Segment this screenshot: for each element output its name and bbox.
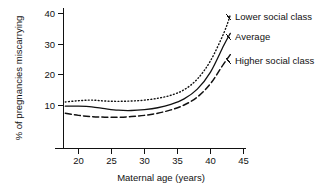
x-tick-label-25: 25 xyxy=(106,155,117,166)
series-group xyxy=(65,15,230,117)
x-tick-label-45: 45 xyxy=(238,155,249,166)
y-tick-label-30: 30 xyxy=(44,39,55,50)
legend-label-higher-social-class: Higher social class xyxy=(235,55,314,66)
y-tick-label-20: 20 xyxy=(44,69,55,80)
y-tick-label-10: 10 xyxy=(44,100,55,111)
leader-line-higher xyxy=(226,58,231,64)
series-line-average xyxy=(65,33,230,110)
y-axis-title: % of pregnancies miscarrying xyxy=(13,16,24,141)
x-axis-title: Maternal age (years) xyxy=(117,172,205,183)
x-tick-label-30: 30 xyxy=(139,155,150,166)
x-tick-label-40: 40 xyxy=(205,155,216,166)
y-tick-label-40: 40 xyxy=(44,8,55,19)
legend-label-average: Average xyxy=(235,31,270,42)
miscarriage-rate-chart: 40 30 20 10 20 25 30 35 40 45 Maternal a… xyxy=(0,0,325,186)
x-tick-label-20: 20 xyxy=(73,155,84,166)
legend-label-lower-social-class: Lower social class xyxy=(235,11,312,22)
chart-plot-area: 40 30 20 10 20 25 30 35 40 45 Maternal a… xyxy=(0,0,325,186)
x-tick-label-35: 35 xyxy=(172,155,183,166)
legend: Lower social class Average Higher social… xyxy=(235,11,314,66)
series-line-higher-social-class xyxy=(65,55,230,118)
y-axis-ticks: 40 30 20 10 xyxy=(44,8,63,111)
x-axis-ticks: 20 25 30 35 40 45 xyxy=(73,149,249,167)
